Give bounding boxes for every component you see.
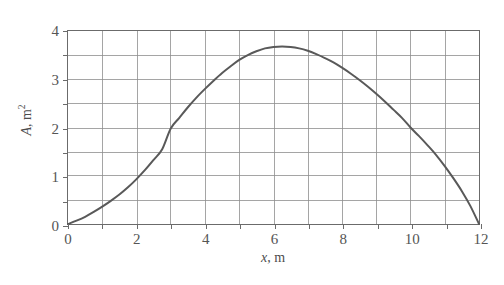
- x-axis-tick: [378, 224, 379, 229]
- figure-container: A, m2 01234024681012 x, m: [0, 0, 504, 285]
- y-axis-tick-label: 1: [52, 170, 60, 185]
- x-axis-tick: [309, 224, 310, 229]
- x-axis-tick: [412, 224, 413, 229]
- y-axis-tick-label: 0: [52, 219, 60, 234]
- y-axis-symbol: A: [19, 127, 34, 136]
- y-axis-unit: , m: [19, 109, 34, 127]
- x-axis-tick: [447, 224, 448, 229]
- x-axis-title: x, m: [261, 250, 285, 266]
- y-axis-tick: [63, 202, 68, 203]
- x-axis-tick: [171, 224, 172, 229]
- y-axis-tick: [63, 104, 68, 105]
- data-curve: [68, 46, 479, 224]
- x-axis-tick: [102, 224, 103, 229]
- x-axis-tick: [275, 224, 276, 229]
- y-axis-tick-label: 4: [52, 24, 60, 39]
- x-axis-tick-label: 8: [340, 232, 348, 247]
- y-axis-tick: [63, 177, 68, 178]
- x-axis-tick: [240, 224, 241, 229]
- x-axis-tick: [68, 224, 69, 229]
- y-axis-tick: [63, 129, 68, 130]
- y-axis-tick: [63, 153, 68, 154]
- x-axis-tick-label: 4: [202, 232, 210, 247]
- data-curve-layer: [68, 31, 479, 224]
- x-axis-unit: , m: [267, 250, 285, 265]
- y-axis-tick: [63, 55, 68, 56]
- plot-area: 01234024681012: [67, 30, 480, 225]
- x-axis-tick-label: 0: [64, 232, 72, 247]
- y-axis-tick-label: 2: [52, 121, 60, 136]
- x-axis-tick-label: 6: [271, 232, 279, 247]
- x-axis-tick: [481, 224, 482, 229]
- x-axis-tick-label: 10: [405, 232, 420, 247]
- x-axis-tick: [343, 224, 344, 229]
- x-axis-tick-label: 12: [474, 232, 489, 247]
- y-axis-tick: [63, 80, 68, 81]
- x-axis-tick: [206, 224, 207, 229]
- y-axis-tick: [63, 31, 68, 32]
- y-axis-exponent: 2: [17, 104, 27, 109]
- x-axis-tick-label: 2: [133, 232, 141, 247]
- x-axis-tick: [137, 224, 138, 229]
- y-axis-title: A, m2: [17, 104, 35, 135]
- y-axis-tick-label: 3: [52, 72, 60, 87]
